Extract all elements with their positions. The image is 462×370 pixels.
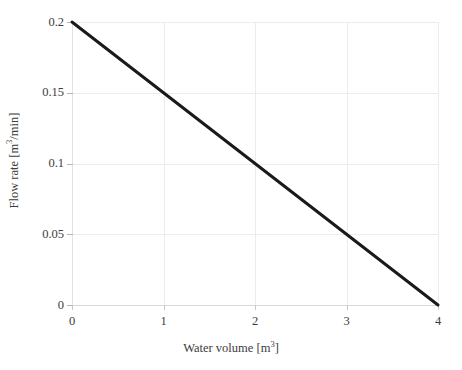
chart-figure: 0.2 0.15 0.1 0.05 0 0 1 2 3 4 Water volu… (0, 0, 462, 370)
data-line-svg (0, 0, 462, 370)
data-series-line (72, 22, 438, 305)
